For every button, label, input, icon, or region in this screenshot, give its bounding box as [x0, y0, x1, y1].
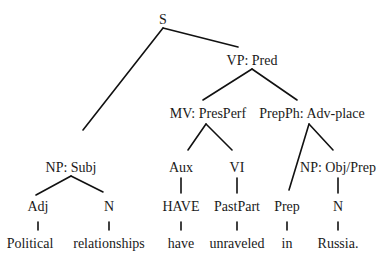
- edge-vp-prepph: [252, 69, 297, 100]
- node-s: S: [159, 12, 167, 27]
- node-vi: VI: [230, 160, 245, 175]
- edge-prepph-npobj: [309, 124, 333, 150]
- leaf-relationships: relationships: [73, 236, 145, 251]
- leaf-have: have: [168, 236, 194, 251]
- node-vp-pred: VP: Pred: [227, 53, 278, 68]
- syntax-tree-diagram: S VP: Pred MV: PresPerf PrepPh: Adv-plac…: [0, 0, 392, 262]
- edge-npsubj-adj: [36, 176, 71, 195]
- edge-prepph-prep: [289, 124, 309, 190]
- leaf-political: Political: [7, 236, 54, 251]
- node-np-obj-prep: NP: Obj/Prep: [300, 160, 376, 175]
- edge-vp-mv: [203, 69, 252, 100]
- node-aux: Aux: [169, 160, 193, 175]
- leaf-unraveled: unraveled: [209, 236, 264, 251]
- leaf-russia: Russia.: [318, 236, 359, 251]
- edge-s-npsubj: [83, 28, 163, 130]
- node-np-subj: NP: Subj: [46, 160, 97, 175]
- edge-mv-vi: [206, 124, 232, 150]
- node-prepph-adv-place: PrepPh: Adv-place: [259, 106, 364, 121]
- node-mv-presperf: MV: PresPerf: [170, 106, 247, 121]
- edge-npsubj-n1: [71, 176, 103, 192]
- leaf-in: in: [282, 236, 293, 251]
- node-adj: Adj: [28, 199, 49, 214]
- node-n-obj: N: [333, 199, 343, 214]
- node-n-subj: N: [104, 199, 114, 214]
- node-prep: Prep: [274, 199, 300, 214]
- edge-s-vp: [163, 28, 238, 47]
- edge-mv-aux: [188, 124, 206, 150]
- node-pastpart: PastPart: [214, 199, 260, 214]
- node-have: HAVE: [162, 199, 199, 214]
